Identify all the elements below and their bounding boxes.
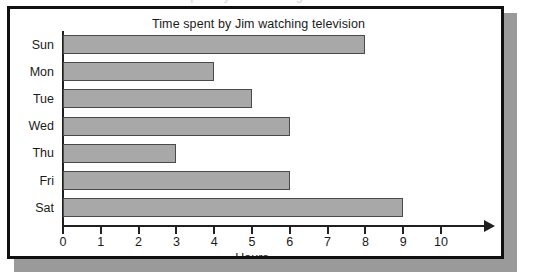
bar-sun — [63, 35, 365, 54]
x-tick-10 — [440, 227, 442, 234]
bar-row: Wed — [63, 117, 441, 136]
x-axis-title: Hours — [63, 251, 441, 259]
x-axis-line — [62, 225, 487, 227]
x-tick-4 — [213, 227, 215, 234]
category-label-fri: Fri — [39, 174, 54, 188]
bar-row: Tue — [63, 89, 441, 108]
category-label-thu: Thu — [32, 146, 54, 160]
x-tick-3 — [175, 227, 177, 234]
x-tick-9 — [402, 227, 404, 234]
plot-area: SunMonTueWedThuFriSat 012345678910 Hours — [10, 9, 504, 259]
category-label-mon: Mon — [30, 65, 54, 79]
category-label-sat: Sat — [35, 201, 54, 215]
x-tick-7 — [327, 227, 329, 234]
x-tick-label-1: 1 — [97, 235, 104, 249]
bar-row: Sat — [63, 198, 441, 217]
bar-thu — [63, 144, 176, 163]
x-tick-label-10: 10 — [434, 235, 448, 249]
x-tick-label-8: 8 — [362, 235, 369, 249]
x-tick-label-4: 4 — [211, 235, 218, 249]
bar-fri — [63, 171, 290, 190]
x-tick-label-0: 0 — [60, 235, 67, 249]
x-tick-label-5: 5 — [249, 235, 256, 249]
x-tick-label-9: 9 — [400, 235, 407, 249]
category-label-sun: Sun — [32, 38, 54, 52]
x-tick-5 — [251, 227, 253, 234]
x-tick-8 — [364, 227, 366, 234]
chart-panel: Time spent by Jim watching television Su… — [7, 6, 504, 259]
scan-top-artifact-text: Time spent by Jim watching television — [155, 0, 356, 3]
x-tick-2 — [138, 227, 140, 234]
x-tick-label-6: 6 — [286, 235, 293, 249]
x-tick-label-2: 2 — [135, 235, 142, 249]
bar-wed — [63, 117, 290, 136]
bar-row: Thu — [63, 144, 441, 163]
x-axis-arrow-icon — [484, 220, 495, 232]
bar-row: Mon — [63, 62, 441, 81]
x-tick-1 — [100, 227, 102, 234]
x-tick-label-7: 7 — [324, 235, 331, 249]
bar-row: Sun — [63, 35, 441, 54]
bar-sat — [63, 198, 403, 217]
category-label-tue: Tue — [33, 92, 54, 106]
x-tick-label-3: 3 — [173, 235, 180, 249]
category-label-wed: Wed — [29, 119, 54, 133]
bar-row: Fri — [63, 171, 441, 190]
bar-tue — [63, 89, 252, 108]
x-tick-0 — [62, 227, 64, 234]
bar-mon — [63, 62, 214, 81]
x-tick-6 — [289, 227, 291, 234]
